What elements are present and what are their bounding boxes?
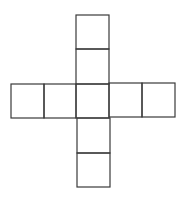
square-right-1 [109,83,142,117]
square-top-2 [76,49,109,84]
cross-net-diagram [0,0,185,197]
cell-group [11,15,175,187]
square-left-2 [11,84,44,118]
square-left-1 [44,84,76,118]
square-right-2 [142,83,175,117]
square-bottom-1 [77,118,110,153]
square-center [76,84,109,118]
square-top-1 [76,15,109,49]
square-bottom-2 [77,153,110,187]
